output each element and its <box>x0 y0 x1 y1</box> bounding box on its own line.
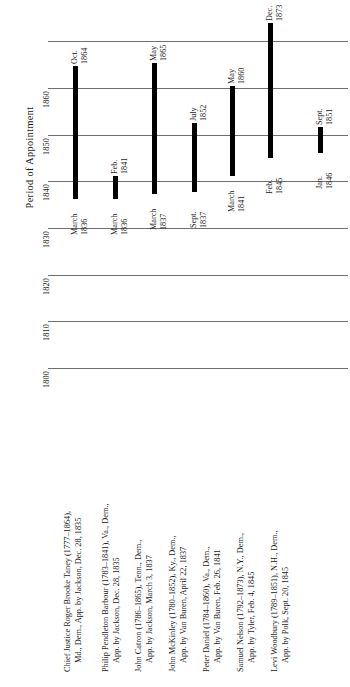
bar-1-end-label: Oct.1864 <box>70 24 89 64</box>
bar-6-end-label: Dec.1873 <box>265 0 284 21</box>
bar-4-end-label: July1852 <box>189 81 208 121</box>
bar-5 <box>230 86 235 176</box>
gridline-1830 <box>48 228 348 229</box>
legend-item-2-line2: App. by Jackson, Dec. 28, 1835 <box>111 503 122 672</box>
bar-5-end-label: May1860 <box>227 44 246 84</box>
legend-item-7-line1: Levi Woodbury (1789–1851), N.H., Dem., <box>269 530 280 672</box>
axis-tick-1820: 1820 <box>42 273 51 299</box>
legend-item-1-line1: Chief Justice Roger Brooke Taney (1777–1… <box>62 511 73 672</box>
bar-1-start-label: March1836 <box>70 191 89 235</box>
axis-tick-1830: 1830 <box>42 227 51 253</box>
justice-legend-list: Chief Justice Roger Brooke Taney (1777–1… <box>0 400 350 687</box>
legend-item-5-line1: Peter Daniel (1784–1860), Va., Dem., <box>201 547 212 672</box>
axis-tick-1850: 1850 <box>42 133 51 159</box>
bar-3-end-label: May1865 <box>149 21 168 61</box>
legend-item-4-line2: App. by Van Buren, April 22, 1837 <box>178 535 189 672</box>
legend-item-3-line2: App. by Jackson, March 3, 1837 <box>144 540 155 672</box>
legend-item-6-line2: App. by Tyler, Feb. 4, 1845 <box>246 533 257 672</box>
bar-5-start-label: March1841 <box>227 168 246 212</box>
bar-3-start-label: March1837 <box>149 186 168 230</box>
gridline-1810 <box>48 321 348 322</box>
bar-7-end-label: Sept.1851 <box>315 85 334 125</box>
y-axis-title: Period of Appointment <box>24 73 35 243</box>
bar-6 <box>268 23 273 157</box>
gridline-1820 <box>48 275 348 276</box>
legend-item-5: Peter Daniel (1784–1860), Va., Dem.,App.… <box>201 547 223 672</box>
legend-item-5-line2: App. by Van Buren, Feb. 26, 1841 <box>212 547 223 672</box>
gridline-1840 <box>48 181 348 182</box>
legend-item-4-line1: John McKinley (1780–1852), Ky., Dem., <box>167 535 178 672</box>
bar-2-start-label: March1836 <box>110 191 129 235</box>
gridline-1870 <box>48 41 348 42</box>
bar-3 <box>152 63 157 195</box>
axis-tick-1860: 1860 <box>42 87 51 113</box>
bar-2-end-label: Feb.1841 <box>110 134 129 174</box>
axis-tick-1810: 1810 <box>42 320 51 346</box>
legend-item-2: Philip Pendleton Barbour (1783–1841), Va… <box>100 503 122 672</box>
legend-item-7: Levi Woodbury (1789–1851), N.H., Dem.,Ap… <box>269 530 291 672</box>
legend-item-6: Samuel Nelson (1792–1873), N.Y., Dem.,Ap… <box>235 533 257 672</box>
legend-item-1-line2: Md., Dem., App. by Jackson, Dec. 28, 183… <box>73 511 84 672</box>
legend-item-7-line2: App. by Polk, Sept. 20, 1845 <box>280 530 291 672</box>
legend-item-3-line1: John Catron (1786–1865), Tenn., Dem., <box>133 540 144 672</box>
legend-item-6-line1: Samuel Nelson (1792–1873), N.Y., Dem., <box>235 533 246 672</box>
legend-item-4: John McKinley (1780–1852), Ky., Dem.,App… <box>167 535 189 672</box>
bar-4 <box>192 123 197 192</box>
bar-4-start-label: Sept.1837 <box>189 184 208 228</box>
gridline-1800 <box>48 368 348 369</box>
timeline-figure: Period of Appointment 186018501840183018… <box>0 0 350 687</box>
axis-tick-1800: 1800 <box>42 367 51 393</box>
legend-item-3: John Catron (1786–1865), Tenn., Dem.,App… <box>133 540 155 672</box>
bar-7-start-label: Jan.1846 <box>315 145 334 189</box>
legend-item-2-line1: Philip Pendleton Barbour (1783–1841), Va… <box>100 503 111 672</box>
bar-6-start-label: Feb.1845 <box>265 150 284 194</box>
legend-item-1: Chief Justice Roger Brooke Taney (1777–1… <box>62 511 84 672</box>
gridline-1850 <box>48 135 348 136</box>
bar-1 <box>73 66 78 199</box>
plot-area: 1860185018401830182018101800Oct.1864Marc… <box>48 30 350 380</box>
axis-tick-1840: 1840 <box>42 180 51 206</box>
